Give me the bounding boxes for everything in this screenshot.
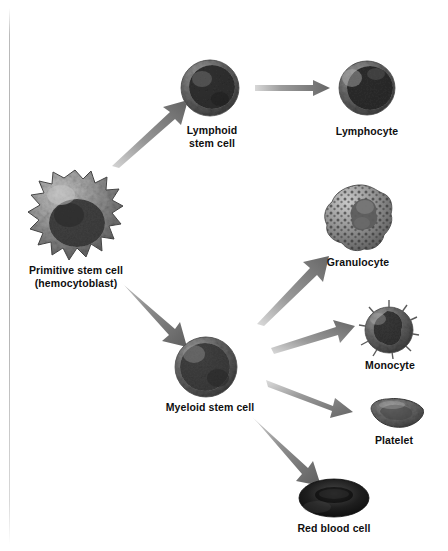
hematopoiesis-diagram: Primitive stem cell (hemocytoblast) Lymp… — [0, 0, 448, 551]
label-myeloid-stem-cell: Myeloid stem cell — [145, 401, 275, 414]
label-lymphoid-stem-cell: Lymphoid stem cell — [162, 124, 262, 150]
lymphoid-stem-cell-image — [178, 57, 242, 119]
label-primitive-stem-cell: Primitive stem cell (hemocytoblast) — [0, 264, 152, 290]
lymphocyte-image — [336, 58, 398, 118]
arrow-lymphoid-to-lymphocyte — [255, 79, 331, 97]
platelet-image — [362, 396, 426, 430]
arrow-myeloid-to-platelet — [265, 378, 355, 420]
primitive-stem-cell-image — [25, 167, 125, 265]
granulocyte-image — [322, 183, 394, 253]
monocyte-image — [357, 299, 421, 361]
red-blood-cell-image — [297, 477, 371, 519]
label-platelet: Platelet — [344, 434, 444, 447]
label-lymphocyte: Lymphocyte — [317, 125, 417, 138]
label-red-blood-cell: Red blood cell — [274, 522, 394, 535]
arrow-myeloid-to-monocyte — [270, 318, 356, 352]
label-monocyte: Monocyte — [340, 359, 440, 372]
label-granulocyte: Granulocyte — [308, 256, 408, 269]
myeloid-stem-cell-image — [172, 334, 240, 400]
